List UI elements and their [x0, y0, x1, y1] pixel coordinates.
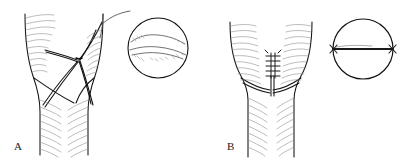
surgical-illustration: A: [0, 0, 405, 161]
panel-a-label: A: [14, 140, 22, 152]
panel-b-label: B: [227, 140, 234, 152]
panel-a-inset: [128, 18, 188, 78]
figure-root: A: [0, 0, 405, 161]
